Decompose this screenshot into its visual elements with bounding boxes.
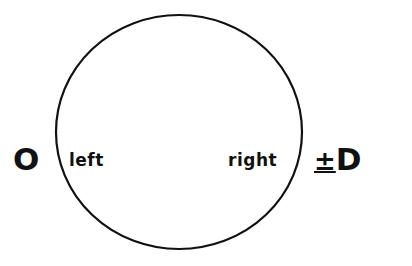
left-label: left (69, 150, 104, 170)
diagram-canvas (0, 0, 412, 266)
destination-label: D (336, 141, 362, 177)
plus-minus-sign: ± (314, 146, 336, 176)
origin-label: O (13, 141, 39, 177)
plus-minus-d-label: ±D (314, 141, 362, 177)
right-label: right (228, 150, 277, 170)
circle (56, 15, 302, 249)
